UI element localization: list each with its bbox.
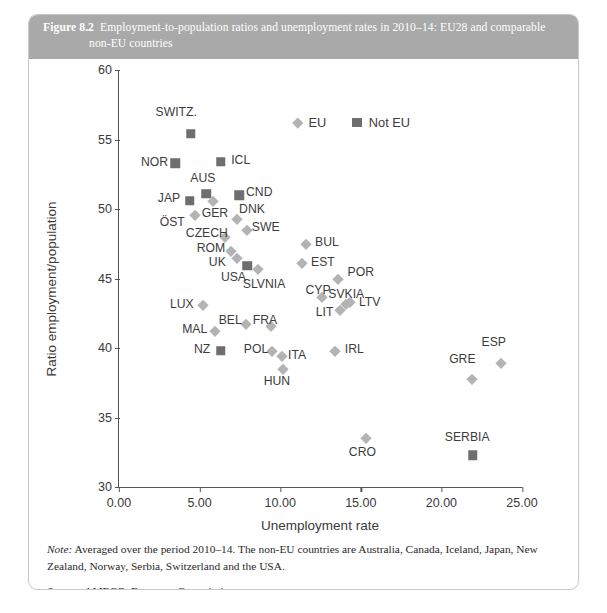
plot-area: 303540455055600.005.0010.0015.0020.0025.… bbox=[118, 70, 522, 488]
data-point-label: MAL bbox=[182, 322, 207, 336]
data-point-cro[interactable] bbox=[361, 433, 372, 444]
data-point-label: NZ bbox=[194, 342, 210, 356]
data-point-switz[interactable] bbox=[186, 129, 196, 139]
data-point-label: NOR bbox=[141, 155, 168, 169]
figure-source: Source: AMECO, European Commission bbox=[47, 583, 562, 590]
x-axis-tick: 15.00 bbox=[345, 487, 376, 510]
figure-footer: Note: Averaged over the period 2010–14. … bbox=[29, 541, 579, 590]
data-point-label: CRO bbox=[349, 445, 376, 459]
figure-title-line-1: Figure 8.2Employment-to-population ratio… bbox=[43, 20, 566, 36]
data-point-label: SWE bbox=[252, 220, 280, 234]
data-point-label: POR bbox=[348, 265, 374, 279]
data-point-serbia[interactable] bbox=[468, 450, 478, 460]
data-point-aus[interactable] bbox=[201, 189, 211, 199]
data-point-esp[interactable] bbox=[496, 358, 507, 369]
data-point-label: SERBIA bbox=[445, 430, 490, 444]
figure-title-text-1: Employment-to-population ratios and unem… bbox=[100, 21, 546, 34]
y-axis-tick: 40 bbox=[98, 341, 119, 355]
figure-title-line-2: non-EU countries bbox=[43, 36, 566, 52]
data-point-label: SLVNIA bbox=[243, 277, 285, 291]
scatter-chart: EU Not EU 303540455055600.005.0010.0015.… bbox=[29, 59, 579, 537]
data-point-label: IRL bbox=[345, 342, 364, 356]
data-point-pol[interactable] bbox=[267, 345, 278, 356]
data-point-nz[interactable] bbox=[216, 346, 226, 356]
x-axis-tick: 20.00 bbox=[426, 487, 457, 510]
data-point-label: ESP bbox=[482, 335, 506, 349]
data-point-label: GRE bbox=[449, 352, 475, 366]
data-point-label: BUL bbox=[315, 235, 339, 249]
data-point-est[interactable] bbox=[297, 258, 308, 269]
data-point-nor[interactable] bbox=[171, 158, 181, 168]
data-point-label: LIT bbox=[316, 305, 334, 319]
figure-header: Figure 8.2Employment-to-population ratio… bbox=[29, 15, 579, 59]
data-point-label: ÖST bbox=[160, 215, 185, 229]
data-point-bel[interactable] bbox=[240, 319, 251, 330]
data-point-label: BEL bbox=[219, 313, 242, 327]
data-point-label: LUX bbox=[170, 297, 194, 311]
data-point-jap[interactable] bbox=[185, 196, 195, 206]
data-point-label: GER bbox=[202, 206, 228, 220]
data-point-label: HUN bbox=[264, 374, 290, 388]
y-axis-tick: 35 bbox=[98, 411, 119, 425]
data-point-por[interactable] bbox=[333, 273, 344, 284]
data-point-label: EST bbox=[311, 255, 335, 269]
data-point-gre[interactable] bbox=[467, 373, 478, 384]
y-axis-label: Ratio employment/population bbox=[44, 202, 59, 377]
data-point-slvnia[interactable] bbox=[252, 263, 263, 274]
figure-number: Figure 8.2 bbox=[43, 21, 94, 34]
data-point-lux[interactable] bbox=[198, 300, 209, 311]
data-point-bul[interactable] bbox=[301, 238, 312, 249]
data-point-label: AUS bbox=[190, 171, 215, 185]
x-axis-tick: 25.00 bbox=[506, 487, 537, 510]
y-axis-tick: 45 bbox=[98, 272, 119, 286]
data-point-label: ICL bbox=[231, 153, 250, 167]
data-point-uk[interactable] bbox=[232, 252, 243, 263]
data-point-label: CYP bbox=[306, 283, 331, 297]
x-axis-tick: 5.00 bbox=[187, 487, 211, 510]
data-point-label: DNK bbox=[239, 202, 265, 216]
data-point-label: ITA bbox=[288, 348, 306, 362]
data-point-label: CND bbox=[246, 185, 272, 199]
data-point-cnd[interactable] bbox=[234, 190, 244, 200]
note-text: Averaged over the period 2010–14. The no… bbox=[47, 543, 538, 572]
data-point-label: SWITZ. bbox=[156, 105, 197, 119]
x-axis-tick: 0.00 bbox=[107, 487, 131, 510]
data-point-mal[interactable] bbox=[210, 326, 221, 337]
data-point-label: FRA bbox=[253, 313, 277, 327]
figure-container: Figure 8.2Employment-to-population ratio… bbox=[28, 14, 579, 590]
data-point-ita[interactable] bbox=[276, 351, 287, 362]
data-point-irl[interactable] bbox=[330, 345, 341, 356]
data-point-hun[interactable] bbox=[277, 364, 288, 375]
figure-note: Note: Averaged over the period 2010–14. … bbox=[47, 541, 562, 574]
y-axis-tick: 55 bbox=[98, 133, 119, 147]
x-axis-label: Unemployment rate bbox=[261, 518, 379, 533]
x-axis-tick: 10.00 bbox=[265, 487, 296, 510]
data-point-label: JAP bbox=[158, 191, 180, 205]
data-point-label: ROM bbox=[197, 241, 225, 255]
data-point-label: LTV bbox=[359, 295, 380, 309]
data-point-label: UK bbox=[209, 255, 226, 269]
y-axis-tick: 50 bbox=[98, 202, 119, 216]
source-keyword: Source: bbox=[47, 585, 82, 590]
note-keyword: Note: bbox=[47, 543, 72, 555]
data-point-label: CZECH bbox=[186, 226, 228, 240]
data-point-st[interactable] bbox=[189, 209, 200, 220]
source-text: AMECO, European Commission bbox=[82, 585, 235, 590]
y-axis-tick: 60 bbox=[98, 63, 119, 77]
data-point-icl[interactable] bbox=[216, 157, 226, 167]
data-point-label: POL bbox=[244, 342, 268, 356]
